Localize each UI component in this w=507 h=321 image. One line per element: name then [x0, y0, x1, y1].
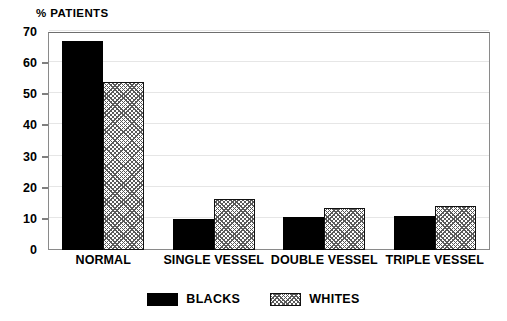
y-axis-tick-label: 0	[30, 243, 37, 257]
chart-legend: BLACKSWHITES	[0, 292, 507, 306]
bar-blacks-single-vessel	[173, 219, 214, 250]
x-axis-label: TRIPLE VESSEL	[385, 253, 484, 267]
bar-series-container	[48, 32, 490, 250]
bar-whites-normal	[103, 82, 144, 250]
bar-blacks-triple-vessel	[394, 216, 435, 250]
bar-whites-double-vessel	[324, 208, 365, 250]
bar-group	[173, 32, 255, 250]
legend-label: WHITES	[309, 292, 359, 306]
x-axis-labels: NORMALSINGLE VESSELDOUBLE VESSELTRIPLE V…	[48, 253, 490, 273]
x-axis-label: NORMAL	[76, 253, 131, 267]
y-axis-tick-label: 50	[23, 87, 37, 101]
y-axis-tick-label: 40	[23, 118, 37, 132]
bar-blacks-normal	[62, 41, 103, 250]
bar-group	[394, 32, 476, 250]
x-axis-label: DOUBLE VESSEL	[271, 253, 378, 267]
legend-item-blacks: BLACKS	[147, 292, 240, 306]
y-axis-tick-label: 70	[23, 25, 37, 39]
y-axis-tick-label: 60	[23, 56, 37, 70]
y-axis: 010203040506070	[0, 0, 48, 252]
gridline	[49, 30, 489, 31]
y-axis-tick-label: 10	[23, 212, 37, 226]
bar-group	[62, 32, 144, 250]
bar-blacks-double-vessel	[283, 217, 324, 250]
bar-chart-figure: % PATIENTS 010203040506070 NORMALSINGLE …	[0, 0, 507, 321]
y-axis-tick-label: 20	[23, 181, 37, 195]
solid-black-swatch	[147, 293, 178, 306]
legend-item-whites: WHITES	[270, 292, 359, 306]
bar-whites-triple-vessel	[435, 206, 476, 250]
legend-label: BLACKS	[186, 292, 240, 306]
bar-group	[283, 32, 365, 250]
y-axis-tick-label: 30	[23, 150, 37, 164]
hatched-white-swatch	[270, 293, 301, 306]
x-axis-label: SINGLE VESSEL	[163, 253, 264, 267]
bar-whites-single-vessel	[214, 199, 255, 250]
